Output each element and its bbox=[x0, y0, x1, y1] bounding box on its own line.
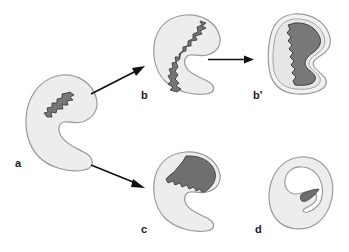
arrow-b-to-b-prime-graphic bbox=[206, 50, 258, 70]
panel-a-body bbox=[26, 75, 97, 171]
panel-b-prime-graphic bbox=[264, 13, 340, 95]
panel-d bbox=[266, 155, 338, 231]
panel-c bbox=[150, 150, 230, 232]
figure-canvas: a b b' c d bbox=[0, 0, 349, 252]
arrow-a-to-b bbox=[88, 60, 150, 100]
panel-c-graphic bbox=[150, 150, 230, 232]
arrow-a-to-b-graphic bbox=[88, 60, 150, 100]
panel-c-label: c bbox=[141, 224, 147, 235]
arrow-b-to-b-prime bbox=[206, 50, 258, 70]
arrow-a-to-c-graphic bbox=[88, 160, 150, 196]
panel-b-prime-label: b' bbox=[253, 90, 262, 101]
panel-d-label: d bbox=[255, 224, 262, 235]
panel-b-prime bbox=[264, 13, 340, 95]
arrow-a-to-c bbox=[88, 160, 150, 196]
panel-d-body bbox=[269, 157, 333, 229]
panel-d-graphic bbox=[266, 155, 338, 231]
panel-a-label: a bbox=[15, 158, 21, 169]
